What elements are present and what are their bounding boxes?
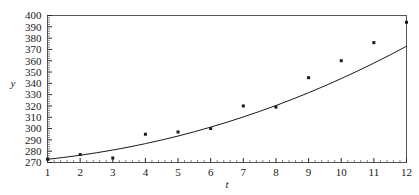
x-tick-label: 1 bbox=[45, 166, 51, 178]
plot-border bbox=[48, 16, 407, 163]
y-tick-label: 350 bbox=[25, 66, 42, 78]
major-tick-marks bbox=[48, 16, 407, 163]
data-point-markers bbox=[46, 21, 408, 161]
x-tick-label: 6 bbox=[208, 166, 214, 178]
data-point bbox=[111, 156, 114, 159]
x-tick-label: 8 bbox=[273, 166, 279, 178]
data-point bbox=[144, 133, 147, 136]
x-axis-label: t bbox=[225, 178, 229, 190]
scatter-plot: 2702802903003103203303403503603703803904… bbox=[0, 0, 419, 195]
data-point bbox=[274, 106, 277, 109]
x-tick-label: 9 bbox=[306, 166, 312, 178]
data-point bbox=[177, 130, 180, 133]
y-axis-tick-labels: 2702802903003103203303403503603703803904… bbox=[25, 9, 42, 168]
minor-tick-marks bbox=[48, 18, 400, 163]
plot-frame bbox=[48, 16, 407, 163]
x-axis-tick-labels: 123456789101112 bbox=[45, 166, 412, 178]
data-point bbox=[307, 76, 310, 79]
y-tick-label: 290 bbox=[25, 134, 42, 146]
x-tick-label: 7 bbox=[241, 166, 247, 178]
y-tick-label: 320 bbox=[25, 100, 42, 112]
curve-path bbox=[48, 46, 407, 159]
data-point bbox=[46, 158, 49, 161]
y-tick-label: 280 bbox=[25, 145, 42, 157]
x-tick-label: 11 bbox=[369, 166, 380, 178]
y-tick-label: 400 bbox=[25, 9, 42, 21]
x-tick-label: 5 bbox=[175, 166, 181, 178]
y-tick-label: 360 bbox=[25, 55, 42, 67]
y-tick-label: 300 bbox=[25, 122, 42, 134]
y-tick-label: 370 bbox=[25, 43, 42, 55]
x-tick-label: 12 bbox=[401, 166, 412, 178]
x-tick-label: 3 bbox=[110, 166, 116, 178]
y-tick-label: 340 bbox=[25, 77, 42, 89]
x-tick-label: 2 bbox=[77, 166, 83, 178]
data-point bbox=[242, 104, 245, 107]
y-tick-label: 270 bbox=[25, 156, 42, 168]
y-axis-label: y bbox=[10, 77, 16, 89]
x-tick-label: 10 bbox=[336, 166, 348, 178]
y-tick-label: 380 bbox=[25, 32, 42, 44]
data-point bbox=[340, 59, 343, 62]
y-tick-label: 390 bbox=[25, 21, 42, 33]
data-point bbox=[405, 21, 408, 24]
data-point bbox=[372, 41, 375, 44]
x-tick-label: 4 bbox=[143, 166, 149, 178]
y-tick-label: 330 bbox=[25, 88, 42, 100]
fitted-curve bbox=[48, 46, 407, 159]
chart-container: 2702802903003103203303403503603703803904… bbox=[0, 0, 419, 195]
data-point bbox=[79, 153, 82, 156]
data-point bbox=[209, 127, 212, 130]
y-tick-label: 310 bbox=[25, 111, 42, 123]
